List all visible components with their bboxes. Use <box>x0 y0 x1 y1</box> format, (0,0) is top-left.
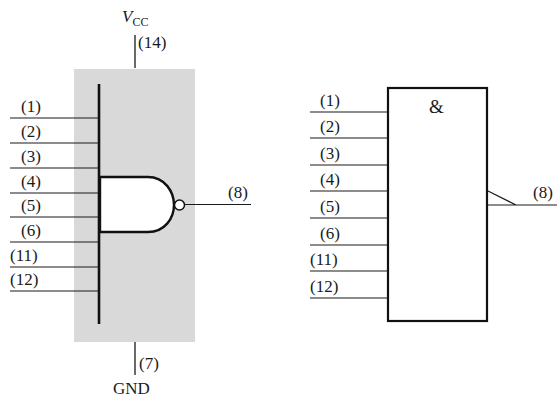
right-input-label: (4) <box>320 170 340 189</box>
right-input-label: (11) <box>310 250 338 269</box>
left-input-label: (12) <box>10 270 38 289</box>
vcc-pin-label: (14) <box>138 33 166 52</box>
left-input-label: (3) <box>21 147 41 166</box>
logic-diagram: VCC (14) (7) GND (1) (2) (3) (4) (5) (6)… <box>0 0 559 410</box>
left-input-label: (5) <box>21 196 41 215</box>
right-input-label: (2) <box>320 117 340 136</box>
left-input-label: (1) <box>21 97 41 116</box>
right-output-label: (8) <box>533 183 553 202</box>
right-input-label: (1) <box>320 91 340 110</box>
left-input-label: (4) <box>21 172 41 191</box>
left-distinctive-symbol: VCC (14) (7) GND (1) (2) (3) (4) (5) (6)… <box>10 7 251 398</box>
left-input-label: (6) <box>21 221 41 240</box>
right-input-label: (6) <box>320 224 340 243</box>
gnd-label: GND <box>113 379 150 398</box>
left-input-label: (2) <box>21 122 41 141</box>
gnd-pin-label: (7) <box>139 354 159 373</box>
and-function-label: & <box>429 96 444 117</box>
right-input-label: (5) <box>320 197 340 216</box>
nand-gate-body <box>100 177 174 232</box>
right-input-label: (3) <box>320 144 340 163</box>
left-input-label: (11) <box>10 246 38 265</box>
left-output-label: (8) <box>228 183 248 202</box>
inversion-bubble-icon <box>175 200 185 210</box>
right-rectangular-symbol: & (1) (2) (3) (4) (5) (6) (11) (12) (8) <box>310 88 557 321</box>
vcc-label: VCC <box>122 7 148 29</box>
right-input-label: (12) <box>310 277 338 296</box>
and-block <box>388 88 487 321</box>
